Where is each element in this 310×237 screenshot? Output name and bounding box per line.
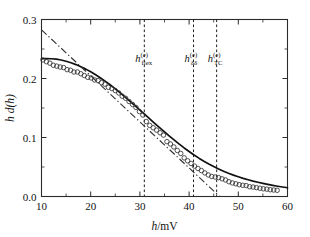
x-tick-label: 30: [134, 200, 146, 212]
plot-canvas: 1020304050600.00.10.20.3h(e)flexh(e)δδh(…: [0, 0, 310, 237]
x-tick-label: 40: [184, 200, 196, 212]
x-tick-label: 20: [85, 200, 97, 212]
y-tick-label: 0.0: [23, 191, 37, 203]
vertical-marker-label-h-tc: h(e)TC: [208, 51, 223, 66]
y-axis-title: h d(h): [4, 94, 17, 122]
plot-frame: [42, 20, 288, 197]
figure-container: 1020304050600.00.10.20.3h(e)flexh(e)δδh(…: [0, 0, 310, 237]
x-tick-label: 60: [282, 200, 294, 212]
x-tick-label: 50: [233, 200, 245, 212]
y-tick-label: 0.3: [23, 14, 37, 26]
data-point-marker: [172, 145, 177, 150]
vertical-marker-label-h-dd: h(e)δδ: [185, 51, 198, 66]
y-tick-label: 0.2: [23, 73, 37, 85]
series-model-solid: [42, 59, 288, 188]
vertical-marker-label-h-flex: h(e)flex: [135, 51, 152, 66]
data-point-marker: [178, 151, 183, 156]
x-axis-title: h/mV: [151, 220, 178, 232]
y-tick-label: 0.1: [23, 132, 37, 144]
data-point-marker: [161, 133, 166, 138]
x-tick-label: 10: [36, 200, 48, 212]
